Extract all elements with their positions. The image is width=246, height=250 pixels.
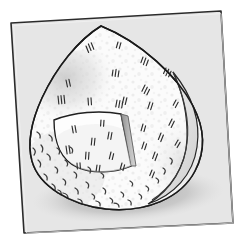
illustration-canvas: Onigiri rice ball with a wedge removed A… bbox=[0, 0, 246, 250]
onigiri-illustration bbox=[0, 0, 246, 250]
